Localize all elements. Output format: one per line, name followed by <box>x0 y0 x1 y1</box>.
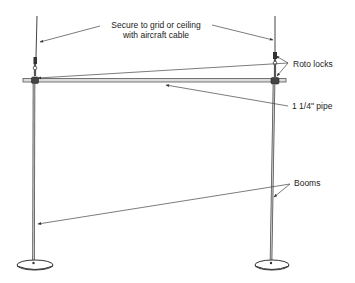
horizontal-pipe <box>23 79 286 83</box>
pipe-label: 1 1/4" pipe <box>292 101 332 111</box>
right-aircraft-cable <box>273 16 277 77</box>
left-boom <box>34 84 35 262</box>
left-roto-lock <box>32 77 39 84</box>
booms-leader-lines <box>38 184 290 224</box>
left-aircraft-cable <box>33 16 37 76</box>
roto-locks-label: Roto locks <box>293 59 333 69</box>
left-base <box>17 260 53 270</box>
right-base <box>255 260 289 270</box>
pipe-leader-line <box>166 85 288 106</box>
right-boom <box>271 84 274 262</box>
cable-label-line1: Secure to grid or ceiling <box>101 20 211 30</box>
boom-rig-diagram: Secure to grid or ceiling with aircraft … <box>0 0 355 283</box>
right-roto-lock <box>271 78 279 85</box>
cable-label: Secure to grid or ceiling with aircraft … <box>101 20 211 40</box>
roto-lock-leader-lines <box>38 56 288 78</box>
cable-label-line2: with aircraft cable <box>101 30 211 40</box>
booms-label: Booms <box>294 178 320 188</box>
diagram-drawing <box>0 0 355 283</box>
